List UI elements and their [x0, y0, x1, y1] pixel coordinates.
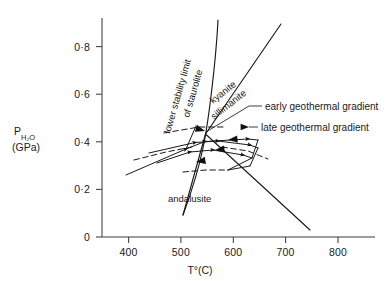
legend-swatch-late-arrow: [241, 124, 249, 130]
y-axis-ticks: [96, 47, 102, 237]
y-tick-label-0-2: 0·2: [74, 183, 90, 195]
x-tick-label-600: 600: [224, 246, 242, 258]
y-axis-title: P H₂O (GPa): [12, 125, 40, 153]
geothermal-gradient-paths: [126, 125, 268, 175]
x-tick-label-500: 500: [172, 246, 190, 258]
legend-label-early: early geothermal gradient: [265, 101, 379, 112]
y-tick-label-0-6: 0·6: [74, 88, 90, 100]
andalusite-label: andalusite: [168, 193, 211, 204]
x-axis-title: T°(C): [187, 264, 212, 276]
y-tick-label-0-4: 0·4: [74, 136, 90, 148]
path-arrowhead-1: [195, 125, 206, 135]
y-axis-title-main: P: [14, 125, 21, 137]
pt-phase-diagram: 0 0·2 0·4 0·6 0·8 400 500 600 700 800 T°…: [0, 0, 388, 281]
x-tick-label-700: 700: [277, 246, 295, 258]
x-tick-label-800: 800: [329, 246, 347, 258]
y-tick-label-0-8: 0·8: [74, 41, 90, 53]
path-arrowheads: [195, 125, 238, 166]
late-gradient-dash-2: [134, 147, 192, 160]
x-tick-label-400: 400: [120, 246, 138, 258]
y-axis-title-unit: (GPa): [12, 141, 40, 153]
x-axis-ticks: [129, 237, 338, 243]
y-tick-label-0: 0: [84, 231, 90, 243]
plot-axes: 0 0·2 0·4 0·6 0·8 400 500 600 700 800 T°…: [12, 18, 375, 276]
late-gradient-dash-4: [183, 170, 228, 172]
legend-label-late: late geothermal gradient: [261, 122, 369, 133]
